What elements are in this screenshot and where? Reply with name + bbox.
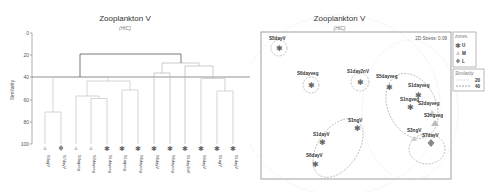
- leaf-label: S1day2nV: [186, 155, 191, 174]
- ytick-80: 80: [23, 119, 29, 125]
- asterisk-icon: ✱: [104, 145, 110, 152]
- point-label: S5dayveg: [376, 74, 398, 79]
- asterisk-icon: ✱: [319, 138, 326, 147]
- point-label: S1dayV: [313, 132, 331, 137]
- leaf-label: S3ngV: [46, 155, 51, 167]
- legend-zones-title: zones: [454, 34, 468, 39]
- leaf-label: S1ngV: [218, 155, 223, 167]
- asterisk-icon: ✱: [354, 124, 361, 133]
- asterisk-icon: ✱: [214, 145, 220, 152]
- zones-legend: zones ✱ U M L: [453, 32, 476, 67]
- asterisk-icon: ✱: [455, 42, 461, 49]
- asterisk-icon: ✱: [357, 78, 364, 87]
- triangle-icon: [74, 146, 78, 150]
- leaf-label: S5dayveg: [139, 155, 144, 173]
- asterisk-icon: ✱: [276, 44, 283, 53]
- ytick-40: 40: [23, 74, 29, 80]
- triangle-icon: [43, 146, 47, 150]
- asterisk-icon: ✱: [167, 145, 173, 152]
- triangle-icon: [89, 146, 93, 150]
- point-label: S6dayV: [306, 153, 324, 158]
- point-label: S1dayveg: [408, 83, 430, 88]
- ytick-60: 60: [23, 97, 29, 103]
- dendrogram-branches: [45, 54, 233, 144]
- ytick-0: 0: [26, 30, 29, 36]
- asterisk-icon: ✱: [151, 145, 157, 152]
- legend-zone-m: M: [462, 51, 466, 56]
- y-axis-label: Similarity: [9, 79, 15, 100]
- dendrogram-plot: 0 20 40 60 80 100 Similarity: [0, 0, 250, 192]
- ytick-100: 100: [21, 141, 30, 147]
- leaf-label: S1dayV: [234, 155, 239, 169]
- point-label: S7dayV: [422, 133, 440, 138]
- dendrogram-panel: Zooplankton V (HIC) 0 20 40 60 80 100 Si…: [0, 0, 250, 192]
- asterisk-icon: ✱: [198, 145, 204, 152]
- leaf-label: S1ngveg: [123, 155, 128, 171]
- point-label: S6dayveg: [297, 71, 319, 76]
- point-label: S1ngveg: [400, 97, 419, 102]
- point-label: S3ngV: [407, 128, 422, 133]
- asterisk-icon: ✱: [407, 103, 414, 112]
- legend-sim-40: 40: [475, 84, 481, 89]
- mds-panel: Zooplankton V (HIC) 2D Stress: 0.08 ✱ ✱ …: [250, 0, 493, 192]
- point-label: S3ngveg: [424, 113, 443, 118]
- asterisk-icon: ✱: [386, 83, 393, 92]
- asterisk-icon: ✱: [182, 145, 188, 152]
- leaf-label: S5dayV: [155, 155, 160, 169]
- leaf-label: S7dayV: [62, 155, 67, 169]
- point-label: S1day2nV: [347, 69, 370, 74]
- leaf-label: S6dayveg: [171, 155, 176, 173]
- point-label: S2dayveg: [418, 101, 440, 106]
- legend-similarity-title: Similarity: [455, 71, 474, 76]
- asterisk-icon: ✱: [312, 160, 319, 169]
- y-ticks: 0 20 40 60 80 100: [21, 30, 32, 147]
- asterisk-icon: ✱: [230, 145, 236, 152]
- asterisk-icon: ✱: [119, 145, 125, 152]
- leaf-label: S2dayveg: [92, 155, 97, 173]
- diamond-icon: [59, 145, 64, 151]
- similarity-legend: Similarity 20 40: [453, 69, 484, 91]
- leaf-label: S1dayveg: [108, 155, 113, 173]
- leaf-symbols: ✱ ✱ ✱ ✱ ✱ ✱ ✱ ✱ ✱: [43, 145, 236, 152]
- leaf-label: S6dayV: [202, 155, 207, 169]
- ytick-20: 20: [23, 52, 29, 58]
- asterisk-icon: ✱: [308, 81, 315, 90]
- legend-zone-l: L: [462, 59, 465, 64]
- legend-sim-20: 20: [475, 78, 481, 83]
- point-label: S1ngV: [348, 118, 363, 123]
- mds-plot: 2D Stress: 0.08 ✱ ✱ ✱ ✱ ✱ ✱ ✱: [250, 0, 493, 192]
- asterisk-icon: ✱: [135, 145, 141, 152]
- leaf-label: S3ngveg: [77, 155, 82, 171]
- leaf-labels: S3ngV S7dayV S3ngveg S2dayveg S1dayveg S…: [46, 155, 239, 174]
- point-label: S5dayV: [269, 36, 287, 41]
- stress-value: 2D Stress: 0.08: [415, 36, 447, 41]
